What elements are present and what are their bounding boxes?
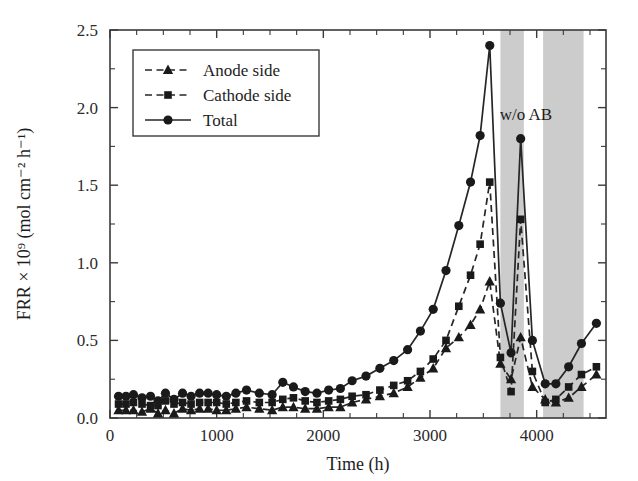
data-point-0-39 — [527, 382, 537, 391]
x-tick-label-0: 0 — [106, 426, 115, 445]
data-point-2-39 — [528, 336, 537, 345]
data-point-1-31 — [442, 337, 450, 345]
data-point-1-39 — [529, 368, 537, 376]
annotation-wo-ab: w/o AB — [500, 105, 552, 124]
data-point-1-34 — [476, 240, 484, 248]
data-point-2-42 — [564, 362, 573, 371]
data-point-2-33 — [466, 177, 475, 186]
data-point-2-35 — [485, 41, 494, 50]
data-point-2-11 — [204, 389, 213, 398]
data-point-2-27 — [389, 356, 398, 365]
data-point-1-37 — [507, 388, 515, 396]
data-point-2-8 — [178, 389, 187, 398]
data-point-0-32 — [454, 332, 464, 341]
legend-group: Anode sideCathode sideTotal — [133, 50, 319, 136]
data-point-1-24 — [348, 392, 356, 400]
data-point-1-8 — [179, 399, 187, 407]
data-point-1-12 — [213, 399, 221, 407]
data-point-1-27 — [390, 382, 398, 390]
data-point-1-17 — [268, 399, 276, 407]
data-point-0-30 — [428, 363, 438, 372]
data-point-1-11 — [204, 399, 212, 407]
data-point-1-0 — [115, 400, 123, 408]
data-point-1-36 — [497, 354, 505, 362]
data-point-2-14 — [231, 389, 240, 398]
data-point-2-7 — [169, 395, 178, 404]
data-point-1-1 — [122, 400, 130, 408]
data-point-1-32 — [455, 302, 463, 310]
x-tick-labels-group: 01000200030004000 — [106, 426, 554, 445]
data-point-2-2 — [129, 390, 138, 399]
annotations-group: w/o AB — [500, 105, 552, 124]
data-point-2-43 — [577, 339, 586, 348]
data-point-1-38 — [517, 216, 525, 224]
legend-label-2: Total — [203, 111, 238, 130]
data-point-2-9 — [186, 392, 195, 401]
data-point-1-25 — [362, 391, 370, 399]
x-tick-label-4: 4000 — [520, 426, 554, 445]
data-point-1-6 — [162, 397, 170, 405]
data-point-1-23 — [337, 396, 345, 404]
data-point-2-10 — [195, 389, 204, 398]
y-tick-label-1: 0.5 — [77, 331, 98, 350]
x-tick-label-2: 2000 — [306, 426, 340, 445]
data-point-1-29 — [417, 368, 425, 376]
data-point-2-34 — [476, 131, 485, 140]
data-point-1-13 — [222, 400, 230, 408]
data-point-2-13 — [222, 392, 231, 401]
legend-label-1: Cathode side — [203, 86, 291, 105]
data-point-0-6 — [160, 405, 170, 414]
data-point-2-20 — [301, 387, 310, 396]
data-point-2-18 — [278, 378, 287, 387]
data-point-2-41 — [551, 379, 560, 388]
y-axis-title: FRR × 10⁹ (mol cm⁻² h⁻¹) — [14, 128, 35, 321]
x-axis-title: Time (h) — [327, 454, 390, 475]
y-tick-label-0: 0.0 — [77, 409, 98, 428]
x-tick-label-1: 1000 — [200, 426, 234, 445]
data-point-1-2 — [130, 399, 138, 407]
data-point-1-10 — [196, 399, 204, 407]
data-point-1-30 — [429, 355, 437, 363]
data-point-2-38 — [516, 134, 525, 143]
data-point-2-21 — [312, 389, 321, 398]
y-tick-label-4: 2.0 — [77, 99, 98, 118]
data-point-1-9 — [187, 400, 195, 408]
data-point-2-24 — [348, 376, 357, 385]
data-point-2-12 — [212, 390, 221, 399]
shaded-band-1 — [543, 30, 584, 418]
data-point-1-15 — [243, 397, 251, 405]
data-point-1-43 — [578, 371, 586, 379]
y-tick-label-3: 1.5 — [77, 176, 98, 195]
data-point-1-19 — [290, 394, 298, 402]
y-tick-label-5: 2.5 — [77, 21, 98, 40]
data-point-2-6 — [161, 389, 170, 398]
data-point-2-5 — [153, 396, 162, 405]
legend-marker-2 — [163, 115, 172, 124]
data-point-2-19 — [289, 382, 298, 391]
data-point-1-18 — [279, 396, 287, 404]
data-point-2-23 — [336, 384, 345, 393]
data-point-2-36 — [496, 299, 505, 308]
data-point-1-42 — [565, 383, 573, 391]
data-point-2-28 — [403, 345, 412, 354]
data-point-2-26 — [375, 364, 384, 373]
data-point-1-20 — [301, 397, 309, 405]
data-point-1-22 — [325, 397, 333, 405]
data-point-2-31 — [441, 266, 450, 275]
data-point-1-4 — [147, 402, 155, 410]
data-point-1-44 — [593, 363, 601, 371]
legend-label-0: Anode side — [203, 61, 280, 80]
data-point-2-15 — [242, 385, 251, 394]
data-point-2-37 — [506, 348, 515, 357]
data-point-1-28 — [404, 377, 412, 385]
data-point-0-35 — [485, 276, 495, 285]
data-point-1-40 — [541, 399, 549, 407]
data-point-1-21 — [313, 399, 321, 407]
axis-titles-group: Time (h)FRR × 10⁹ (mol cm⁻² h⁻¹) — [14, 128, 389, 475]
y-tick-labels-group: 0.00.51.01.52.02.5 — [77, 21, 98, 428]
data-point-2-40 — [541, 379, 550, 388]
data-point-2-30 — [429, 305, 438, 314]
y-tick-label-2: 1.0 — [77, 254, 98, 273]
frr-vs-time-chart: 01000200030004000 0.00.51.01.52.02.5 w/o… — [0, 0, 638, 481]
data-point-1-14 — [232, 399, 240, 407]
